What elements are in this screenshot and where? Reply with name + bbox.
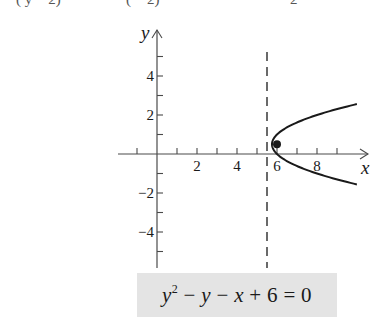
parabola-curve	[272, 104, 357, 184]
y-tick-label: −2	[138, 185, 154, 201]
y-axis-label: y	[139, 22, 150, 43]
x-tick-label: 2	[193, 158, 201, 174]
x-tick-label: 4	[233, 158, 241, 174]
x-tick-label: 6	[273, 158, 281, 174]
eq-var-x: x	[234, 283, 244, 307]
equation-text: y2 − y − x + 6 = 0	[162, 282, 312, 308]
eq-var-y2: y	[201, 283, 211, 307]
equation-box: y2 − y − x + 6 = 0	[137, 273, 337, 317]
parabola-plot: 246842−2−4 x y	[0, 0, 388, 320]
y-tick-label: −4	[138, 224, 154, 240]
eq-minus2: −	[211, 283, 234, 307]
y-tick-label: 2	[147, 107, 155, 123]
eq-minus: −	[178, 283, 201, 307]
x-axis-label: x	[360, 157, 370, 178]
eq-rest: + 6 = 0	[244, 283, 312, 307]
axes	[118, 30, 368, 268]
focus-point	[273, 140, 281, 148]
y-tick-label: 4	[147, 68, 155, 84]
eq-var-y: y	[162, 283, 172, 307]
